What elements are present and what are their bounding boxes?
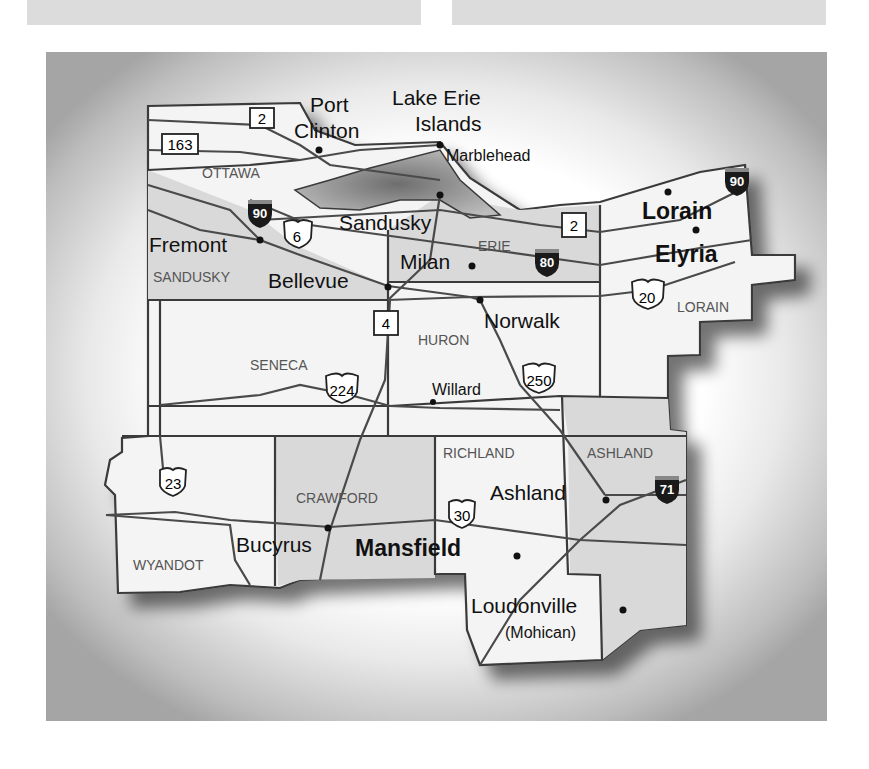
city-label-bellevue: Bellevue <box>268 269 349 292</box>
state-route-2-shield-north: 2 <box>250 108 274 128</box>
region-map: OTTAWA SANDUSKY ERIE LORAIN SENECA HURON… <box>0 0 869 769</box>
city-label-loudonville: Loudonville <box>471 594 577 617</box>
city-label-ashland: Ashland <box>490 481 566 504</box>
svg-text:90: 90 <box>253 206 267 221</box>
county-label-huron: HURON <box>418 332 469 348</box>
us-route-20-shield: 20 <box>632 280 664 310</box>
city-label-norwalk: Norwalk <box>484 309 560 332</box>
svg-text:250: 250 <box>526 372 551 389</box>
svg-text:23: 23 <box>165 475 182 492</box>
svg-text:30: 30 <box>454 507 471 524</box>
county-label-seneca: SENECA <box>250 357 308 373</box>
county-label-lorain: LORAIN <box>677 299 729 315</box>
state-route-163-shield: 163 <box>162 134 198 154</box>
county-label-crawford: CRAWFORD <box>296 490 378 506</box>
svg-text:224: 224 <box>329 382 354 399</box>
svg-text:2: 2 <box>258 110 266 127</box>
city-label-mansfield: Mansfield <box>355 535 461 561</box>
city-label-marblehead: Marblehead <box>446 147 531 164</box>
state-route-2-shield-east: 2 <box>562 213 586 237</box>
city-label-sandusky: Sandusky <box>339 211 432 234</box>
city-label-bucyrus: Bucyrus <box>236 533 312 556</box>
svg-text:71: 71 <box>660 482 674 497</box>
us-route-224-shield: 224 <box>326 374 358 404</box>
county-label-ashland: ASHLAND <box>587 445 653 461</box>
city-label-port: Port <box>310 93 349 116</box>
county-label-wyandot: WYANDOT <box>133 557 204 573</box>
city-label-fremont: Fremont <box>149 233 227 256</box>
svg-text:6: 6 <box>293 228 301 245</box>
city-label-islands: Islands <box>415 112 482 135</box>
us-route-250-shield: 250 <box>523 364 555 394</box>
state-route-4-shield: 4 <box>374 311 398 335</box>
county-label-richland: RICHLAND <box>443 445 515 461</box>
svg-text:2: 2 <box>570 217 578 234</box>
city-label-elyria: Elyria <box>655 241 718 267</box>
county-label-ottawa: OTTAWA <box>202 165 260 181</box>
city-label-milan: Milan <box>400 250 450 273</box>
city-label-clinton: Clinton <box>294 119 359 142</box>
city-label-lake-erie: Lake Erie <box>392 86 481 109</box>
county-label-sandusky: SANDUSKY <box>153 269 231 285</box>
county-label-erie: ERIE <box>478 238 511 254</box>
svg-text:80: 80 <box>540 255 554 270</box>
svg-text:163: 163 <box>167 136 192 153</box>
svg-text:90: 90 <box>730 174 744 189</box>
city-label-willard: Willard <box>432 381 481 398</box>
county-crawford-shade <box>275 436 435 586</box>
svg-text:4: 4 <box>382 315 390 332</box>
svg-text:20: 20 <box>639 289 656 306</box>
city-label-mohican: (Mohican) <box>505 624 576 641</box>
city-label-lorain: Lorain <box>642 198 712 224</box>
